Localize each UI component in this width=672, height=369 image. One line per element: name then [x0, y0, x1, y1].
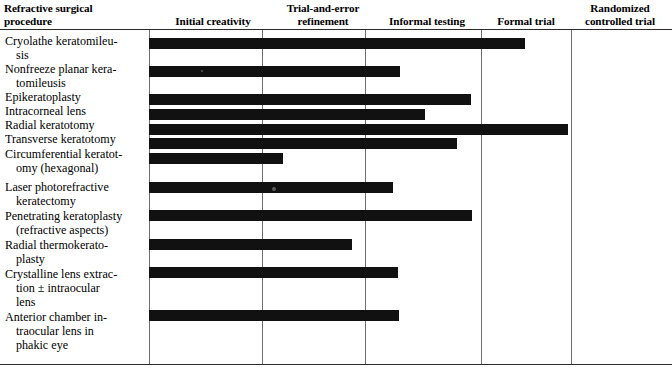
column-header-trial-and-error-line1: Trial-and-error	[287, 2, 360, 14]
row-label-line: omy (hexagonal)	[5, 161, 147, 175]
row-label-line: sis	[5, 48, 147, 62]
row-label-line: traocular lens in	[5, 324, 147, 338]
progress-bar	[149, 124, 568, 135]
column-header-randomized-line1: Randomized	[590, 2, 649, 14]
column-header-randomized-controlled-trial: Randomized controlled trial	[568, 2, 672, 28]
column-header-randomized-line2: controlled trial	[568, 15, 672, 28]
row-label: Radial thermokerato-plasty	[5, 238, 147, 266]
row-label: Laser photorefractivekeratectomy	[5, 180, 147, 208]
row-label-line: Radial thermokerato-	[5, 238, 108, 252]
row-label-line: lens	[5, 295, 147, 309]
row-label-line: Intracorneal lens	[5, 104, 86, 118]
scan-artifact	[201, 70, 203, 72]
progress-bar	[149, 239, 352, 250]
row-label-line: Anterior chamber in-	[5, 310, 107, 324]
column-header-trial-and-error-line2: refinement	[268, 15, 378, 28]
row-label-line: plasty	[5, 252, 147, 266]
progress-bar	[149, 310, 399, 321]
row-label-line: Crystalline lens extrac-	[5, 267, 117, 281]
row-label-line: tion ± intraocular	[5, 281, 147, 295]
row-label: Intracorneal lens	[5, 104, 147, 118]
progress-bar	[149, 109, 425, 120]
row-label: Circumferential keratot-omy (hexagonal)	[5, 147, 147, 175]
progress-bar	[149, 66, 400, 77]
row-label: Radial keratotomy	[5, 118, 147, 132]
row-label: Crystalline lens extrac-tion ± intraocul…	[5, 267, 147, 309]
row-label-line: (refractive aspects)	[5, 223, 147, 237]
row-label: Nonfreeze planar kera-tomileusis	[5, 62, 147, 90]
column-header-formal-trial: Formal trial	[480, 15, 572, 28]
column-header-formal-trial-line1: Formal trial	[497, 15, 555, 27]
row-label: Epikeratoplasty	[5, 90, 147, 104]
scan-artifact	[272, 187, 276, 191]
row-label: Anterior chamber in-traocular lens inpha…	[5, 310, 147, 352]
column-header-procedure: Refractive surgical procedure	[4, 2, 154, 28]
table-header: Refractive surgical procedure Initial cr…	[0, 0, 672, 29]
column-header-trial-and-error: Trial-and-error refinement	[268, 2, 378, 28]
row-label: Transverse keratotomy	[5, 132, 147, 146]
row-label-line: Radial keratotomy	[5, 118, 95, 132]
column-header-initial-creativity-line1: Initial creativity	[175, 15, 250, 27]
progress-bar	[149, 38, 525, 49]
row-label-line: phakic eye	[5, 338, 147, 352]
progress-bar	[149, 210, 472, 221]
row-label-line: keratectomy	[5, 194, 147, 208]
progress-bar	[149, 94, 471, 105]
column-header-informal-testing-line1: Informal testing	[389, 15, 465, 27]
row-label-line: Circumferential keratot-	[5, 147, 122, 161]
refractive-surgery-development-table: Refractive surgical procedure Initial cr…	[0, 0, 672, 369]
row-label-line: Nonfreeze planar kera-	[5, 62, 116, 76]
bottom-rule	[0, 364, 672, 365]
column-header-procedure-line2: procedure	[4, 15, 154, 28]
column-header-initial-creativity: Initial creativity	[152, 15, 274, 28]
row-label: Penetrating keratoplasty(refractive aspe…	[5, 209, 147, 237]
row-label-line: tomileusis	[5, 76, 147, 90]
column-divider-5	[571, 30, 572, 364]
progress-bar	[149, 267, 398, 278]
row-label-line: Epikeratoplasty	[5, 90, 81, 104]
progress-bar	[149, 138, 457, 149]
row-label-line: Cryolathe keratomileu-	[5, 34, 118, 48]
progress-bar	[149, 182, 393, 193]
row-label-line: Penetrating keratoplasty	[5, 209, 122, 223]
row-label-line: Transverse keratotomy	[5, 132, 116, 146]
column-divider-4	[481, 30, 482, 364]
progress-bar	[149, 153, 283, 164]
column-header-procedure-line1: Refractive surgical	[4, 2, 93, 14]
row-label: Cryolathe keratomileu-sis	[5, 34, 147, 62]
row-label-line: Laser photorefractive	[5, 180, 109, 194]
column-header-informal-testing: Informal testing	[368, 15, 486, 28]
